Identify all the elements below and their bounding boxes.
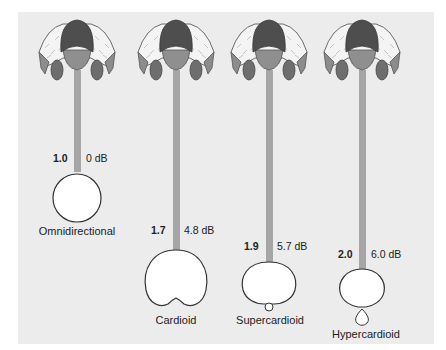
distance-bar bbox=[359, 70, 366, 270]
distance-bar bbox=[74, 70, 81, 172]
supercardioid-pattern-icon bbox=[242, 262, 295, 304]
pattern-name-label: Hypercardioid bbox=[332, 328, 400, 340]
gain-label: 4.8 dB bbox=[184, 224, 214, 236]
pattern-name-label: Supercardioid bbox=[236, 314, 304, 326]
distance-factor-label: 2.0 bbox=[338, 248, 353, 260]
omnidirectional-pattern-icon bbox=[53, 174, 101, 222]
gain-label: 6.0 dB bbox=[371, 248, 401, 260]
hypercardioid-pattern-icon bbox=[340, 269, 385, 307]
pattern-name-label: Omnidirectional bbox=[39, 225, 115, 237]
gain-label: 5.7 dB bbox=[277, 240, 307, 252]
figure-cardioid bbox=[138, 20, 214, 305]
distance-factor-label: 1.7 bbox=[151, 224, 166, 236]
pattern-name-label: Cardioid bbox=[156, 314, 197, 326]
distance-bar bbox=[266, 70, 273, 263]
distance-factor-label: 1.9 bbox=[244, 240, 259, 252]
figure-omnidirectional bbox=[39, 20, 115, 222]
cardioid-pattern-icon bbox=[145, 250, 207, 305]
gain-label: 0 dB bbox=[86, 152, 108, 164]
figure-supercardioid bbox=[231, 20, 307, 311]
distance-factor-label: 1.0 bbox=[53, 152, 68, 164]
distance-bar bbox=[173, 70, 180, 250]
rear-lobe bbox=[356, 309, 369, 325]
figure-hypercardioid bbox=[324, 20, 400, 325]
polar-pattern-diagram bbox=[0, 0, 446, 350]
rear-lobe bbox=[265, 303, 273, 311]
